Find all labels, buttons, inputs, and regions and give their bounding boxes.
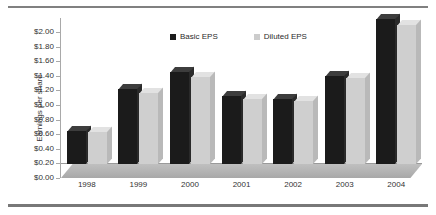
bar-front-face	[191, 77, 210, 164]
x-axis-label-2000: 2000	[164, 180, 216, 189]
x-axis-labels: 1998199920002001200220032004	[61, 180, 422, 189]
bar-front-face	[243, 99, 262, 164]
bar-group	[267, 18, 319, 164]
chart-figure: Earnings per share Basic EPS Diluted EPS…	[0, 0, 436, 215]
y-axis-tick	[56, 134, 60, 135]
y-axis-tick	[56, 32, 60, 33]
plot-floor	[61, 164, 422, 178]
y-axis-tick-label: $0.60	[34, 130, 54, 138]
y-axis-tick	[56, 47, 60, 48]
y-axis-tick	[56, 178, 60, 179]
bar-side-face	[107, 126, 112, 164]
top-divider-rule	[8, 6, 428, 8]
y-axis-tick-label: $1.40	[34, 72, 54, 80]
bar-basic-eps-2002	[273, 94, 292, 164]
bar-front-face	[118, 89, 137, 164]
bar-front-face	[170, 72, 189, 164]
x-axis-label-2004: 2004	[370, 180, 422, 189]
bar-basic-eps-2003	[325, 71, 344, 164]
bar-group	[164, 18, 216, 164]
bar-groups	[61, 18, 422, 164]
bar-basic-eps-1998	[67, 126, 86, 164]
bar-group	[216, 18, 268, 164]
y-axis-tick	[56, 163, 60, 164]
bar-side-face	[210, 72, 215, 164]
y-axis-tick-label: $1.00	[34, 101, 54, 109]
y-axis-tick	[56, 105, 60, 106]
bar-basic-eps-1999	[118, 84, 137, 164]
bar-diluted-eps-2001	[243, 94, 262, 164]
y-axis-tick-label: $1.60	[34, 57, 54, 65]
bar-side-face	[262, 93, 267, 164]
bar-group	[370, 18, 422, 164]
y-axis-tick	[56, 90, 60, 91]
plot-area: $0.00$0.20$0.40$0.60$0.80$1.00$1.20$1.40…	[60, 18, 422, 178]
bar-front-face	[325, 76, 344, 164]
bar-side-face	[158, 88, 163, 164]
y-axis-tick	[56, 61, 60, 62]
bar-group	[61, 18, 113, 164]
bar-basic-eps-2000	[170, 67, 189, 164]
bar-side-face	[365, 72, 370, 164]
bar-front-face	[139, 93, 158, 164]
y-axis-tick	[56, 149, 60, 150]
bar-diluted-eps-2004	[397, 20, 416, 164]
y-axis-tick-label: $1.80	[34, 43, 54, 51]
bar-diluted-eps-1998	[88, 127, 107, 164]
x-axis-label-2003: 2003	[319, 180, 371, 189]
bar-front-face	[294, 101, 313, 164]
bar-diluted-eps-2002	[294, 96, 313, 164]
bar-side-face	[313, 96, 318, 164]
bar-diluted-eps-2000	[191, 72, 210, 164]
bar-front-face	[222, 96, 241, 164]
y-axis-tick-label: $0.00	[34, 174, 54, 182]
bar-diluted-eps-1999	[139, 88, 158, 164]
y-axis-tick-label: $0.40	[34, 145, 54, 153]
bar-side-face	[416, 20, 421, 164]
bar-front-face	[88, 132, 107, 164]
bar-group	[319, 18, 371, 164]
bar-basic-eps-2004	[376, 14, 395, 164]
bar-front-face	[67, 131, 86, 164]
y-axis-tick-label: $1.20	[34, 86, 54, 94]
y-axis-tick	[56, 120, 60, 121]
x-axis-label-2002: 2002	[267, 180, 319, 189]
y-axis-tick-label: $0.20	[34, 159, 54, 167]
bar-basic-eps-2001	[222, 91, 241, 164]
y-axis-tick-label: $0.80	[34, 116, 54, 124]
bar-diluted-eps-2003	[346, 73, 365, 164]
bar-group	[113, 18, 165, 164]
bar-front-face	[397, 25, 416, 164]
x-axis-label-1998: 1998	[61, 180, 113, 189]
x-axis-label-1999: 1999	[113, 180, 165, 189]
y-axis-tick	[56, 76, 60, 77]
bar-front-face	[273, 99, 292, 164]
x-axis-label-2001: 2001	[216, 180, 268, 189]
bar-front-face	[346, 78, 365, 164]
y-axis-tick-label: $2.00	[34, 28, 54, 36]
bar-front-face	[376, 19, 395, 164]
bottom-divider-rule	[8, 204, 428, 207]
